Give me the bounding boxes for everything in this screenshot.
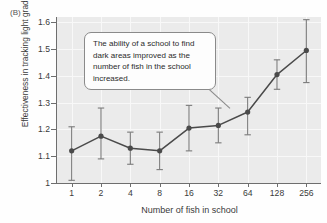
- y-axis-tick: [51, 103, 57, 104]
- y-axis-tick: [51, 183, 57, 184]
- data-point-marker: [245, 109, 250, 114]
- x-axis-tick: [306, 183, 307, 187]
- y-axis-tick: [51, 49, 57, 50]
- x-axis-tick: [130, 183, 131, 187]
- figure-panel-b: (B) Effectiveness in tracking light grad…: [0, 0, 327, 223]
- data-point-marker: [186, 126, 191, 131]
- y-axis-tick: [51, 22, 57, 23]
- x-axis-tick: [189, 183, 190, 187]
- x-axis-tick: [160, 183, 161, 187]
- callout-tail: [208, 88, 230, 108]
- annotation-text: The ability of a school to find dark are…: [93, 38, 208, 84]
- x-axis-title: Number of fish in school: [57, 205, 322, 215]
- x-axis-tick: [101, 183, 102, 187]
- x-axis-tick-label: 256: [289, 188, 323, 198]
- data-point-marker: [304, 48, 309, 53]
- x-axis-tick: [72, 183, 73, 187]
- annotation-callout: The ability of a school to find dark are…: [84, 32, 216, 90]
- x-axis-tick: [218, 183, 219, 187]
- x-axis-tick: [248, 183, 249, 187]
- data-point-marker: [69, 148, 74, 153]
- data-point-marker: [157, 148, 162, 153]
- data-point-marker: [216, 123, 221, 128]
- x-axis-tick: [277, 183, 278, 187]
- data-point-marker: [98, 134, 103, 139]
- y-axis-tick: [51, 76, 57, 77]
- data-point-marker: [128, 146, 133, 151]
- y-axis-tick: [51, 156, 57, 157]
- data-point-marker: [274, 72, 279, 77]
- y-axis-tick: [51, 129, 57, 130]
